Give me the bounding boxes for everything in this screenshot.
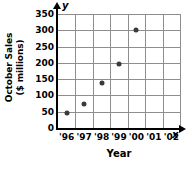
gridline-horizontal (58, 47, 180, 48)
y-axis-line (56, 8, 58, 130)
y-tick-label: 300 (35, 26, 54, 35)
x-tick-label: '98 (94, 132, 109, 143)
y-tick-label: 100 (35, 91, 54, 100)
gridline-vertical (163, 14, 164, 128)
y-tick-label: 150 (35, 75, 54, 84)
y-axis-title-line2: ($ millions) (15, 32, 26, 101)
scatter-plot-figure: October Sales ($ millions) 0501001502002… (0, 0, 189, 170)
gridline-vertical (110, 14, 111, 128)
gridline-vertical (93, 14, 94, 128)
y-axis-title-line1: October Sales (5, 32, 16, 101)
gridline-horizontal (58, 14, 180, 15)
y-tick-label: 250 (35, 42, 54, 51)
x-axis-tick-labels: '96'97'98'99'00'01'02 (0, 132, 189, 146)
y-tick-label: 350 (35, 10, 54, 19)
gridline-horizontal (58, 112, 180, 113)
gridline-vertical (180, 14, 181, 128)
x-tick-label: '96 (59, 132, 74, 143)
plot-area (58, 14, 180, 128)
x-axis-line (56, 128, 180, 130)
data-point (99, 81, 104, 86)
data-point (134, 28, 139, 33)
y-axis-tick-labels: 050100150200250300350 (28, 0, 56, 140)
gridline-horizontal (58, 30, 180, 31)
gridline-vertical (145, 14, 146, 128)
data-point (64, 111, 69, 116)
x-axis-title: Year (58, 148, 180, 159)
x-tick-label: '00 (129, 132, 144, 143)
data-point (82, 102, 87, 107)
data-point (117, 61, 122, 66)
gridline-horizontal (58, 79, 180, 80)
x-tick-label: '97 (77, 132, 92, 143)
gridline-horizontal (58, 95, 180, 96)
x-tick-label: '99 (111, 132, 126, 143)
y-tick-label: 200 (35, 58, 54, 67)
y-axis-title: October Sales ($ millions) (0, 0, 30, 134)
x-tick-label: '01 (146, 132, 161, 143)
gridline-vertical (75, 14, 76, 128)
y-axis-arrow-icon (53, 2, 61, 9)
x-tick-label: '02 (164, 132, 179, 143)
y-tick-label: 50 (41, 107, 54, 116)
gridline-vertical (128, 14, 129, 128)
y-axis-variable-label: y (62, 1, 69, 11)
